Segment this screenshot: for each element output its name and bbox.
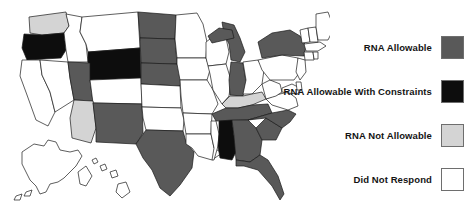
legend-item-allowable-with-constraints[interactable]: RNA Allowable With Constraints (258, 78, 464, 104)
state-AK[interactable] (22, 140, 82, 194)
state-IA[interactable] (177, 58, 210, 80)
legend-label-allowable: RNA Allowable (364, 42, 441, 53)
state-MN[interactable] (175, 13, 207, 58)
state-AR[interactable] (183, 113, 212, 134)
legend-label-allowable-with-constraints: RNA Allowable With Constraints (284, 86, 441, 97)
state-SD[interactable] (140, 38, 177, 64)
state-AK-panhandle[interactable] (78, 166, 92, 186)
state-KS[interactable] (141, 84, 181, 108)
state-HI-maui[interactable] (110, 170, 118, 178)
state-OR[interactable] (22, 33, 66, 60)
legend-swatch-not-allowable (441, 124, 464, 147)
state-OK[interactable] (142, 107, 184, 131)
map-legend: RNA Allowable RNA Allowable With Constra… (258, 0, 464, 220)
figure-root: RNA Allowable RNA Allowable With Constra… (0, 0, 464, 220)
legend-item-not-allowable[interactable]: RNA Not Allowable (258, 122, 464, 148)
state-WY[interactable] (88, 48, 141, 80)
legend-swatch-allowable-with-constraints (441, 80, 464, 103)
state-NE[interactable] (141, 63, 182, 86)
legend-swatch-did-not-respond (441, 168, 464, 191)
state-HI-oahu[interactable] (100, 164, 107, 171)
legend-label-did-not-respond: Did Not Respond (353, 174, 441, 185)
legend-item-did-not-respond[interactable]: Did Not Respond (258, 166, 464, 192)
state-MT[interactable] (80, 12, 140, 52)
legend-swatch-allowable (441, 36, 464, 59)
state-TX[interactable] (136, 130, 194, 196)
state-WA[interactable] (29, 12, 69, 35)
legend-label-not-allowable: RNA Not Allowable (345, 130, 441, 141)
state-AK-aleutians-2[interactable] (14, 194, 22, 200)
state-CO[interactable] (90, 78, 142, 104)
state-NM[interactable] (93, 103, 143, 144)
state-AZ[interactable] (70, 100, 96, 143)
legend-item-allowable[interactable]: RNA Allowable (258, 34, 464, 60)
state-HI-bigisland[interactable] (116, 182, 130, 198)
state-ND[interactable] (138, 12, 176, 39)
state-AK-aleutians-1[interactable] (24, 190, 32, 196)
state-HI-kauai[interactable] (92, 158, 98, 164)
